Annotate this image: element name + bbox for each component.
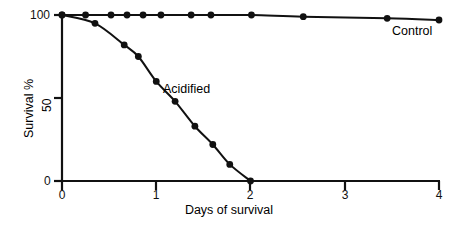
data-point [108,12,115,19]
x-axis-title: Days of survival [0,203,458,217]
data-point [248,12,255,19]
data-point [384,15,391,22]
y-tick-label-100: 100 [30,8,50,22]
data-point [121,41,128,48]
series-label-control: Control [392,24,432,38]
data-point [82,12,89,19]
data-series-layer [59,12,443,185]
y-tick-label-50: 50 [40,99,54,112]
data-point [135,53,142,60]
series-label-acidified: Acidified [163,82,210,96]
y-tick-label-0: 0 [44,174,51,188]
data-point [208,12,215,19]
y-axis-ticks [54,15,62,181]
survival-chart: 100 50 0 Survival % 0 1 2 3 4 Days of su… [0,0,458,230]
series-control [59,12,443,24]
data-point [436,17,443,24]
data-point [140,12,147,19]
series-acidified [59,12,254,185]
data-point [209,141,216,148]
data-point [153,78,160,85]
x-tick-label-3: 3 [335,188,355,202]
x-tick-label-4: 4 [429,188,449,202]
data-point [92,20,99,27]
x-tick-label-2: 2 [240,188,260,202]
x-tick-label-1: 1 [146,188,166,202]
data-point [226,161,233,168]
y-axis-title: Survival % [22,79,36,138]
data-point [247,178,254,185]
data-point [191,123,198,130]
x-tick-label-0: 0 [52,188,72,202]
data-point [59,12,66,19]
data-point [188,12,195,19]
data-point [124,12,131,19]
data-point [172,98,179,105]
series-line [62,15,251,181]
data-point [158,12,165,19]
data-point [300,13,307,20]
